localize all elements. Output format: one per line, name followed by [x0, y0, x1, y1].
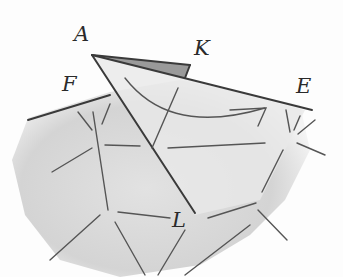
label-L: L [172, 210, 186, 231]
diagram-drawing [0, 0, 343, 277]
label-F: F [62, 74, 77, 95]
label-E: E [296, 76, 311, 97]
label-K: K [194, 38, 210, 59]
diagram-canvas: A K F E L [0, 0, 343, 277]
label-A: A [74, 24, 89, 45]
